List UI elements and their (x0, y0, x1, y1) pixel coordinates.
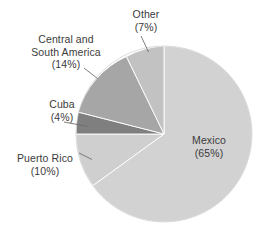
pie-label-puerto-rico-percent: (10%) (2, 165, 88, 178)
pie-chart: Other (7%) Central and South America (14… (0, 0, 264, 241)
pie-label-cuba-name: Cuba (26, 98, 98, 111)
pie-label-other-name: Other (110, 8, 182, 21)
pie-label-central-south-america-name-line2: South America (14, 46, 118, 59)
pie-label-cuba: Cuba (4%) (26, 98, 98, 123)
pie-label-puerto-rico: Puerto Rico (10%) (2, 152, 88, 177)
pie-label-mexico-percent: (65%) (176, 147, 242, 160)
pie-label-mexico: Mexico (65%) (176, 134, 242, 159)
pie-label-cuba-percent: (4%) (26, 111, 98, 124)
pie-label-other-percent: (7%) (110, 21, 182, 34)
pie-label-mexico-name: Mexico (176, 134, 242, 147)
pie-label-central-south-america: Central and South America (14%) (14, 33, 118, 71)
pie-label-central-south-america-name-line1: Central and (14, 33, 118, 46)
pie-label-other: Other (7%) (110, 8, 182, 33)
pie-label-central-south-america-percent: (14%) (14, 58, 118, 71)
pie-label-puerto-rico-name: Puerto Rico (2, 152, 88, 165)
